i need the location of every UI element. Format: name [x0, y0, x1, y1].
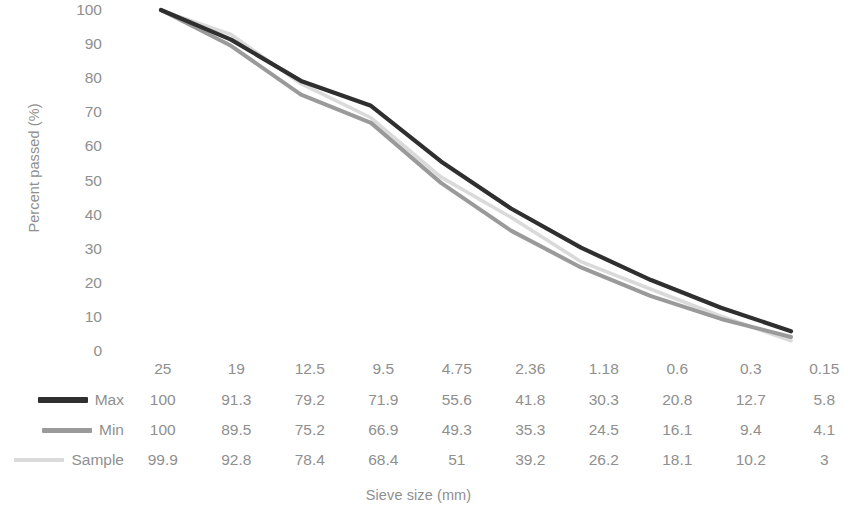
legend-swatch-sample: [14, 458, 64, 462]
table-cell: 5.8: [788, 386, 844, 414]
y-axis-tick-label: 60: [85, 139, 102, 155]
y-axis-tick-label: 100: [76, 2, 102, 18]
table-cell: 39.2: [494, 446, 568, 474]
table-cell: 12.7: [714, 386, 788, 414]
table-cell: 9.4: [714, 416, 788, 444]
table-row: Min 10089.575.266.949.335.324.516.19.44.…: [0, 416, 837, 444]
y-axis-tick-label: 20: [85, 275, 102, 291]
table-cell: 66.9: [347, 416, 421, 444]
table-corner-cell: [0, 355, 126, 383]
table-cell: 79.2: [273, 386, 347, 414]
y-axis-tick-label: 40: [85, 207, 102, 223]
table-cell: 78.4: [273, 446, 347, 474]
table-cell: 24.5: [567, 416, 641, 444]
table-cell: 20.8: [641, 386, 715, 414]
legend-item-sample[interactable]: Sample: [0, 446, 126, 474]
y-axis-tick-label: 90: [85, 36, 102, 52]
table-cell: 41.8: [494, 386, 568, 414]
table-cell: 30.3: [567, 386, 641, 414]
y-axis-title: Percent passed (%): [26, 68, 42, 268]
data-table: 251912.59.54.752.361.180.60.30.15 Max 10…: [0, 355, 837, 480]
table-cell: 16.1: [641, 416, 715, 444]
table-cell: 75.2: [273, 416, 347, 444]
legend-item-max[interactable]: Max: [0, 386, 126, 414]
table-header-cell: 0.15: [788, 355, 844, 383]
series-line-min: [161, 10, 791, 337]
table-header-cell: 19: [200, 355, 274, 383]
y-axis-tick-labels: 1009080706050403020100: [58, 0, 102, 360]
table-cell: 51: [420, 446, 494, 474]
table-cell: 18.1: [641, 446, 715, 474]
y-axis-tick-label: 70: [85, 105, 102, 121]
y-axis-tick-label: 80: [85, 70, 102, 86]
plot-svg: [126, 10, 826, 351]
table-row: Max 10091.379.271.955.641.830.320.812.75…: [0, 386, 837, 414]
legend-label-min: Min: [99, 422, 124, 438]
table-header-cell: 9.5: [347, 355, 421, 383]
table-cell: 68.4: [347, 446, 421, 474]
legend-swatch-min: [42, 428, 92, 433]
plot-area: [126, 10, 826, 351]
table-header-cell: 1.18: [567, 355, 641, 383]
table-header-cell: 0.6: [641, 355, 715, 383]
table-cell: 89.5: [200, 416, 274, 444]
legend-item-min[interactable]: Min: [0, 416, 126, 444]
series-line-max: [161, 10, 791, 331]
table-cell: 26.2: [567, 446, 641, 474]
table-cell: 100: [126, 386, 200, 414]
table-row-categories: 251912.59.54.752.361.180.60.30.15: [0, 355, 837, 383]
legend-label-max: Max: [95, 392, 124, 408]
table-cell: 4.1: [788, 416, 844, 444]
table-cell: 55.6: [420, 386, 494, 414]
table-cell: 100: [126, 416, 200, 444]
legend-swatch-max: [38, 397, 88, 403]
table-header-cell: 25: [126, 355, 200, 383]
table-header-cell: 4.75: [420, 355, 494, 383]
table-header-cell: 2.36: [494, 355, 568, 383]
series-line-sample: [161, 10, 791, 340]
table-cell: 71.9: [347, 386, 421, 414]
y-axis-tick-label: 10: [85, 309, 102, 325]
table-cell: 49.3: [420, 416, 494, 444]
table-header-cell: 12.5: [273, 355, 347, 383]
table-cell: 35.3: [494, 416, 568, 444]
y-axis-tick-label: 30: [85, 241, 102, 257]
table-cell: 92.8: [200, 446, 274, 474]
table-cell: 3: [788, 446, 844, 474]
table-header-cell: 0.3: [714, 355, 788, 383]
x-axis-title: Sieve size (mm): [0, 487, 837, 503]
table-cell: 91.3: [200, 386, 274, 414]
y-axis-tick-label: 50: [85, 173, 102, 189]
table-cell: 99.9: [126, 446, 200, 474]
table-row: Sample 99.992.878.468.45139.226.218.110.…: [0, 446, 837, 474]
legend-label-sample: Sample: [71, 452, 124, 468]
table-cell: 10.2: [714, 446, 788, 474]
